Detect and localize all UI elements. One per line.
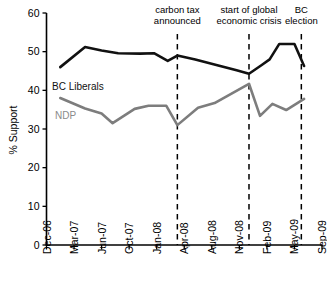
- annotation-label-carbon-tax-line1: carbon tax: [155, 4, 200, 15]
- series-label-bc-liberals: BC Liberals: [52, 81, 104, 92]
- x-tick-label: Jun-07: [96, 222, 108, 254]
- y-tick-label: 0: [34, 239, 40, 251]
- annotation-label-bc-election-line1: BC: [295, 4, 308, 15]
- y-tick-label: 50: [28, 45, 40, 57]
- y-axis: 0102030405060 % Support: [7, 7, 47, 251]
- y-tick-label: 20: [28, 161, 40, 173]
- series-label-ndp: NDP: [55, 110, 76, 121]
- annotation-lines: [177, 34, 301, 245]
- x-tick-label: Apr-08: [178, 222, 190, 254]
- y-axis-title: % Support: [7, 105, 19, 154]
- x-tick-label: Jan-08: [151, 222, 163, 254]
- x-tick-label: Sep-09: [316, 220, 327, 254]
- x-tick-label: Oct-07: [123, 222, 135, 254]
- series-line-bc-liberals: [60, 44, 304, 74]
- x-tick-label: Feb-09: [261, 221, 273, 254]
- x-tick-label: Dec-06: [41, 220, 53, 254]
- y-axis-ticks: 0102030405060: [28, 7, 47, 251]
- x-tick-label: Nov-08: [233, 220, 245, 254]
- x-tick-label: Mar-07: [68, 221, 80, 254]
- x-axis: Dec-06Mar-07Jun-07Oct-07Jan-08Apr-08Aug-…: [41, 219, 327, 254]
- annotation-label-economic-crisis-line2: economic crisis: [217, 15, 282, 26]
- y-tick-label: 40: [28, 84, 40, 96]
- x-tick-label: May-09: [288, 219, 300, 254]
- support-line-chart: carbon taxannouncedstart of globaleconom…: [0, 0, 327, 301]
- annotation-label-economic-crisis-line1: start of global: [220, 4, 277, 15]
- annotation-label-bc-election-line2: election: [285, 15, 318, 26]
- chart-container: carbon taxannouncedstart of globaleconom…: [0, 0, 327, 301]
- x-axis-tick-labels: Dec-06Mar-07Jun-07Oct-07Jan-08Apr-08Aug-…: [41, 219, 327, 254]
- annotation-label-carbon-tax-line2: announced: [154, 15, 201, 26]
- x-tick-label: Aug-08: [206, 220, 218, 254]
- y-tick-label: 10: [28, 200, 40, 212]
- y-tick-label: 60: [28, 7, 40, 19]
- annotation-labels: carbon taxannouncedstart of globaleconom…: [154, 4, 318, 26]
- y-tick-label: 30: [28, 123, 40, 135]
